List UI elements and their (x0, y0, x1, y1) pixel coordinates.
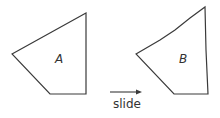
shape-a-outline (12, 13, 86, 94)
slide-arrow-icon (110, 90, 142, 95)
shape-b-outline (136, 7, 208, 94)
shape-a-label: A (55, 52, 63, 66)
slide-caption: slide (113, 97, 141, 111)
shape-b-label: B (179, 52, 187, 66)
